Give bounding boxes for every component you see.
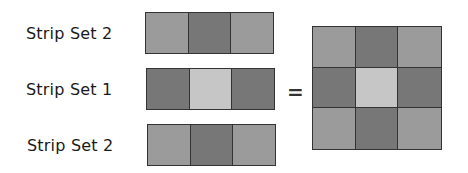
patch [190,125,233,165]
strip-label-middle: Strip Set 1 [26,80,112,100]
patch [146,13,188,53]
block-patch [356,27,399,68]
patch [148,125,190,165]
strip-label-top: Strip Set 2 [26,24,112,44]
patch [232,125,275,165]
patch [231,69,274,109]
block-patch [356,108,399,149]
block-patch [398,27,441,68]
block-patch [313,108,356,149]
patch [188,13,231,53]
strip-set-middle [146,68,275,110]
block-patch [398,108,441,149]
block-patch [313,27,356,68]
nine-patch-block [312,26,442,150]
patch [230,13,273,53]
block-patch [313,68,356,109]
strip-set-bottom [147,124,276,166]
block-patch [356,68,399,109]
strip-set-top [145,12,274,54]
patch [189,69,232,109]
strip-label-bottom: Strip Set 2 [27,136,113,156]
equals-sign: = [287,82,304,102]
patch [147,69,189,109]
block-patch [398,68,441,109]
